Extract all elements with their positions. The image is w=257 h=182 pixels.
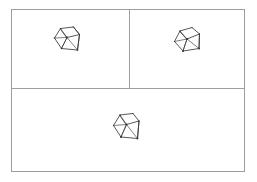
wireframe-polyhedron-1: [46, 24, 90, 68]
panel-grid: [11, 9, 245, 172]
wireframe-polyhedron-3: [106, 111, 150, 155]
panel-bottom[interactable]: [12, 89, 244, 171]
figure-root: [0, 0, 257, 182]
panel-top-left[interactable]: [12, 10, 130, 89]
wireframe-polyhedron-2: [167, 25, 211, 69]
panel-top-right[interactable]: [130, 10, 244, 89]
